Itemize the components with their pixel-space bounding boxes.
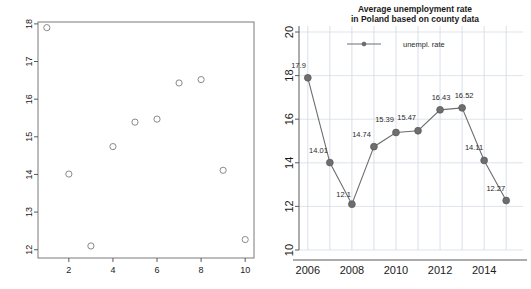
data-point-label: 17.9 bbox=[291, 61, 306, 70]
left-x-tick-label: 8 bbox=[199, 265, 204, 275]
right-line-svg: Average unemployment ratein Poland based… bbox=[265, 0, 531, 289]
left-y-tick-label: 17 bbox=[24, 57, 34, 67]
left-y-tick-label: 13 bbox=[24, 207, 34, 217]
data-point-marker bbox=[437, 106, 444, 113]
y-tick-label: 18 bbox=[283, 69, 295, 81]
x-tick-label: 2012 bbox=[428, 264, 452, 276]
data-point-label: 14.74 bbox=[352, 130, 371, 139]
data-point-marker bbox=[503, 197, 510, 204]
left-scatter-svg: 12131415161718246810 bbox=[0, 0, 265, 289]
right-line-panel: Average unemployment ratein Poland based… bbox=[265, 0, 531, 289]
data-point-marker bbox=[415, 127, 422, 134]
data-point-label: 14.11 bbox=[465, 143, 483, 152]
data-point-marker bbox=[371, 143, 378, 150]
y-tick-label: 12 bbox=[283, 200, 295, 212]
chart-title-line1: Average unemployment rate bbox=[358, 4, 472, 14]
left-y-tick-label: 14 bbox=[24, 169, 34, 179]
left-data-point bbox=[88, 243, 94, 249]
data-point-marker bbox=[481, 157, 488, 164]
legend-entry-label: unempl. rate bbox=[403, 40, 445, 49]
y-tick-label: 16 bbox=[283, 113, 295, 125]
left-data-point bbox=[44, 25, 50, 31]
left-x-tick-label: 10 bbox=[240, 265, 250, 275]
left-x-tick-label: 4 bbox=[110, 265, 115, 275]
left-data-point bbox=[242, 236, 248, 242]
data-point-label: 14.01 bbox=[309, 146, 328, 155]
data-point-label: 15.47 bbox=[397, 113, 416, 122]
left-y-tick-label: 15 bbox=[24, 132, 34, 142]
x-tick-label: 2010 bbox=[384, 264, 408, 276]
data-point-label: 12.27 bbox=[486, 184, 505, 193]
data-point-marker bbox=[459, 104, 466, 111]
left-y-tick-label: 18 bbox=[24, 19, 34, 29]
legend-marker-sample bbox=[362, 42, 366, 46]
data-point-label: 12.1 bbox=[336, 190, 351, 199]
left-plot-frame bbox=[38, 22, 254, 258]
x-tick-label: 2008 bbox=[340, 264, 364, 276]
left-data-point bbox=[220, 167, 226, 173]
left-y-tick-label: 12 bbox=[24, 245, 34, 255]
data-point-marker bbox=[348, 201, 355, 208]
figure-root: 12131415161718246810 Average unemploymen… bbox=[0, 0, 531, 289]
data-point-marker bbox=[393, 129, 400, 136]
left-data-point bbox=[176, 80, 182, 86]
x-tick-label: 2014 bbox=[472, 264, 496, 276]
y-tick-label: 20 bbox=[283, 26, 295, 38]
y-tick-label: 14 bbox=[283, 157, 295, 169]
data-point-label: 16.52 bbox=[455, 91, 474, 100]
grid bbox=[299, 26, 523, 250]
data-point-label: 15.39 bbox=[375, 115, 394, 124]
left-data-points bbox=[44, 25, 249, 250]
left-y-tick-label: 16 bbox=[24, 94, 34, 104]
left-data-point bbox=[154, 116, 160, 122]
chart-title-line2: in Poland based on county data bbox=[351, 14, 479, 24]
left-data-point bbox=[110, 143, 116, 149]
left-x-tick-label: 6 bbox=[155, 265, 160, 275]
data-point-marker bbox=[326, 159, 333, 166]
left-data-point bbox=[66, 171, 72, 177]
left-x-tick-label: 2 bbox=[66, 265, 71, 275]
data-points bbox=[304, 74, 509, 207]
data-point-marker bbox=[304, 74, 311, 81]
left-data-point bbox=[198, 76, 204, 82]
left-data-point bbox=[132, 119, 138, 125]
x-tick-label: 2006 bbox=[296, 264, 320, 276]
series-line-unempl-rate bbox=[308, 78, 506, 204]
data-point-label: 16.43 bbox=[432, 93, 451, 102]
y-tick-label: 10 bbox=[283, 244, 295, 256]
left-scatter-panel: 12131415161718246810 bbox=[0, 0, 265, 289]
